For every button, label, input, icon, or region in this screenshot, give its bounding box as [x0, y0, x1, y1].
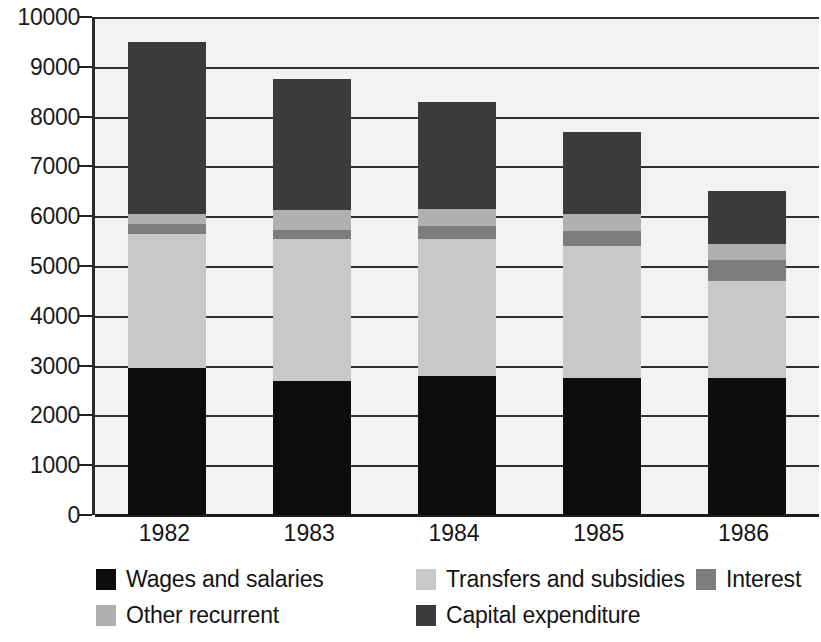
y-tick-label: 2000: [30, 402, 80, 429]
bar-segment-interest: [708, 260, 786, 281]
bar-segment-capital-expenditure: [128, 42, 206, 214]
y-tick-mark: [78, 66, 92, 68]
bar-segment-interest: [128, 224, 206, 234]
bar-segment-wages-and-salaries: [128, 368, 206, 515]
legend-label: Capital expenditure: [446, 602, 640, 629]
bar-segment-other-recurrent: [708, 244, 786, 260]
x-tick-label-1985: 1985: [539, 520, 659, 547]
bar-segment-capital-expenditure: [418, 102, 496, 209]
bar-1986[interactable]: [708, 191, 786, 515]
legend-item-interest[interactable]: Interest: [696, 562, 801, 596]
bar-segment-other-recurrent: [273, 210, 351, 230]
bar-segment-transfers-and-subsidies: [128, 234, 206, 368]
legend-row-1: Wages and salariesTransfers and subsidie…: [96, 562, 816, 596]
legend-label: Interest: [726, 566, 801, 593]
legend-item-transfers-and-subsidies[interactable]: Transfers and subsidies: [416, 562, 685, 596]
bar-segment-wages-and-salaries: [708, 378, 786, 515]
chart-legend: Wages and salariesTransfers and subsidie…: [96, 560, 816, 636]
legend-label: Wages and salaries: [126, 566, 324, 593]
x-tick-label-1983: 1983: [249, 520, 369, 547]
y-tick-label: 10000: [18, 4, 80, 31]
y-tick-label: 9000: [30, 53, 80, 80]
y-tick-label: 7000: [30, 153, 80, 180]
y-tick-label: 6000: [30, 203, 80, 230]
y-axis: 0100020003000400050006000700080009000100…: [0, 0, 86, 560]
bar-segment-transfers-and-subsidies: [708, 281, 786, 378]
bar-segment-wages-and-salaries: [418, 376, 496, 515]
bar-segment-capital-expenditure: [563, 132, 641, 214]
bar-segment-transfers-and-subsidies: [563, 246, 641, 378]
bar-segment-other-recurrent: [563, 214, 641, 231]
y-tick-mark: [78, 16, 92, 18]
legend-label: Transfers and subsidies: [446, 566, 685, 593]
bar-segment-interest: [418, 226, 496, 238]
bar-segment-capital-expenditure: [273, 79, 351, 209]
bar-segment-capital-expenditure: [708, 191, 786, 243]
y-tick-mark: [78, 165, 92, 167]
y-tick-label: 1000: [30, 452, 80, 479]
legend-item-capital-expenditure[interactable]: Capital expenditure: [416, 598, 640, 632]
legend-label: Other recurrent: [126, 602, 279, 629]
legend-swatch-icon: [96, 605, 116, 626]
legend-swatch-icon: [416, 605, 436, 626]
bar-1984[interactable]: [418, 102, 496, 515]
bar-segment-other-recurrent: [128, 214, 206, 224]
legend-item-wages-and-salaries[interactable]: Wages and salaries: [96, 562, 324, 596]
x-tick-label-1986: 1986: [684, 520, 804, 547]
y-tick-mark: [78, 365, 92, 367]
legend-swatch-icon: [696, 569, 716, 590]
x-tick-label-1982: 1982: [104, 520, 224, 547]
bar-1983[interactable]: [273, 79, 351, 515]
y-tick-mark: [78, 414, 92, 416]
y-tick-mark: [78, 464, 92, 466]
bar-segment-wages-and-salaries: [273, 381, 351, 515]
bar-segment-wages-and-salaries: [563, 378, 641, 515]
y-tick-mark: [78, 265, 92, 267]
legend-swatch-icon: [416, 569, 436, 590]
legend-row-2: Other recurrentCapital expenditure: [96, 598, 816, 632]
x-axis: 19821983198419851986: [92, 520, 816, 554]
bar-segment-interest: [563, 231, 641, 246]
gridline: [95, 17, 819, 19]
bar-segment-transfers-and-subsidies: [418, 239, 496, 376]
bar-1982[interactable]: [128, 42, 206, 515]
y-tick-mark: [78, 514, 92, 516]
bar-1985[interactable]: [563, 132, 641, 515]
bar-segment-transfers-and-subsidies: [273, 239, 351, 381]
y-tick-mark: [78, 116, 92, 118]
x-tick-label-1984: 1984: [394, 520, 514, 547]
bar-segment-other-recurrent: [418, 209, 496, 226]
y-tick-mark: [78, 315, 92, 317]
y-tick-label: 5000: [30, 253, 80, 280]
y-tick-label: 8000: [30, 103, 80, 130]
y-tick-mark: [78, 215, 92, 217]
plot-area: [92, 17, 819, 515]
y-tick-label: 3000: [30, 352, 80, 379]
bar-segment-interest: [273, 230, 351, 239]
y-tick-label: 4000: [30, 302, 80, 329]
legend-swatch-icon: [96, 569, 116, 590]
stacked-bar-chart: 0100020003000400050006000700080009000100…: [0, 0, 821, 642]
legend-item-other-recurrent[interactable]: Other recurrent: [96, 598, 279, 632]
